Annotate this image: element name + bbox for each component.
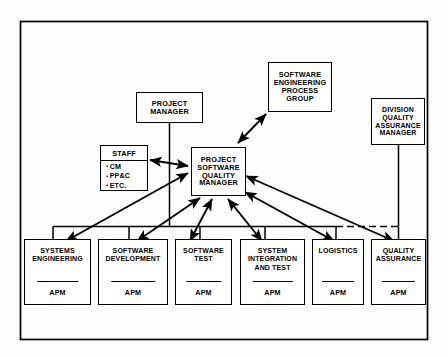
node-system-integration-line-1: SYSTEM [241, 247, 304, 255]
node-software-development-role: APM [99, 288, 167, 297]
node-system-integration-and-test[interactable]: SYSTEM INTEGRATION AND TEST APM [240, 239, 305, 305]
staff-item-ppc-label: PP&C [110, 172, 130, 180]
divider [322, 281, 354, 282]
node-system-integration-line-3: AND TEST [241, 264, 304, 272]
arrow-psqm-software-test [190, 199, 212, 241]
node-systems-engineering[interactable]: SYSTEMS ENGINEERING APM [24, 239, 91, 305]
arrow-psqm-quality-assurance [246, 176, 394, 241]
node-division-quality-assurance-manager[interactable]: DIVISION QUALITY ASSURANCE MANAGER [371, 98, 425, 145]
node-systems-engineering-role: APM [25, 288, 90, 297]
node-logistics[interactable]: LOGISTICS APM [312, 239, 364, 305]
staff-item-etc-label: ETC. [110, 182, 127, 190]
node-software-development-line-1: SOFTWARE [99, 247, 167, 255]
node-project-manager[interactable]: PROJECT MANAGER [136, 92, 203, 123]
node-system-integration-role: APM [241, 288, 304, 297]
staff-item-ppc: •PP&C [106, 172, 147, 181]
divider [111, 281, 155, 282]
node-division-qa-line-3: ASSURANCE [372, 122, 424, 130]
divider [382, 281, 416, 282]
node-software-development[interactable]: SOFTWARE DEVELOPMENT APM [98, 239, 168, 305]
staff-item-cm-label: CM [110, 163, 121, 171]
node-sepg-line-4: GROUP [269, 95, 331, 103]
divider [186, 281, 221, 282]
node-software-engineering-process-group[interactable]: SOFTWARE ENGINEERING PROCESS GROUP [268, 62, 332, 112]
staff-item-etc: •ETC. [106, 182, 147, 191]
arrow-psqm-software-development [137, 198, 200, 241]
staff-item-cm: •CM [106, 163, 147, 172]
node-software-test[interactable]: SOFTWARE TEST APM [175, 239, 232, 305]
node-quality-assurance[interactable]: QUALITY ASSURANCE APM [371, 239, 426, 305]
node-systems-engineering-line-1: SYSTEMS [25, 247, 90, 255]
node-staff-title: STAFF [101, 146, 147, 161]
node-software-development-line-2: DEVELOPMENT [99, 255, 167, 263]
arrow-psqm-system-integration [228, 199, 262, 241]
arrow-psqm-logistics [245, 192, 334, 241]
node-project-software-quality-manager[interactable]: PROJECT SOFTWARE QUALITY MANAGER [191, 147, 246, 196]
node-division-qa-line-4: MANAGER [372, 129, 424, 137]
node-logistics-line-1: LOGISTICS [313, 247, 363, 255]
node-staff[interactable]: STAFF •CM •PP&C •ETC. [100, 145, 148, 191]
bullet-icon: • [106, 173, 108, 179]
node-quality-assurance-line-2: ASSURANCE [372, 255, 425, 263]
bullet-icon: • [106, 163, 108, 169]
node-system-integration-line-2: INTEGRATION [241, 255, 304, 263]
node-project-manager-line-2: MANAGER [137, 108, 202, 116]
node-software-test-line-2: TEST [176, 255, 231, 263]
divider [37, 281, 79, 282]
bullet-icon: • [106, 182, 108, 188]
diagram-canvas: PROJECT MANAGER SOFTWARE ENGINEERING PRO… [0, 0, 448, 357]
node-software-test-line-1: SOFTWARE [176, 247, 231, 255]
node-staff-items: •CM •PP&C •ETC. [101, 161, 147, 191]
node-logistics-role: APM [313, 288, 363, 297]
node-psqm-line-4: MANAGER [192, 179, 245, 187]
divider [252, 281, 292, 282]
node-software-test-role: APM [176, 288, 231, 297]
arrow-psqm-sepg [238, 114, 266, 143]
node-quality-assurance-line-1: QUALITY [372, 247, 425, 255]
node-systems-engineering-line-2: ENGINEERING [25, 255, 90, 263]
node-division-qa-line-1: DIVISION [372, 106, 424, 114]
node-division-qa-line-2: QUALITY [372, 114, 424, 122]
node-quality-assurance-role: APM [372, 288, 425, 297]
